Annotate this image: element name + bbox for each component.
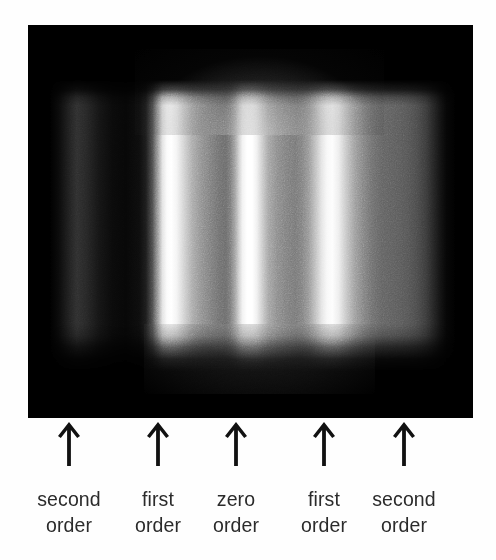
up-arrow-icon-first-order-left — [144, 420, 172, 466]
label-line-2: order — [340, 512, 468, 538]
diffraction-photograph — [28, 25, 473, 418]
label-zero-order: zero order — [188, 486, 284, 538]
up-arrow-icon-second-order-right — [390, 420, 418, 466]
label-line-2: order — [188, 512, 284, 538]
up-arrow-icon-zero-order — [222, 420, 250, 466]
order-arrow-row — [0, 420, 496, 468]
order-label-row: second order first order zero order firs… — [0, 486, 496, 556]
label-line-1: zero — [188, 486, 284, 512]
label-line-1: second — [340, 486, 468, 512]
diffraction-figure: second order first order zero order firs… — [0, 0, 496, 560]
film-grain-overlay — [28, 25, 473, 418]
up-arrow-icon-first-order-right — [310, 420, 338, 466]
label-second-order-right: second order — [340, 486, 468, 538]
up-arrow-icon-second-order-left — [55, 420, 83, 466]
